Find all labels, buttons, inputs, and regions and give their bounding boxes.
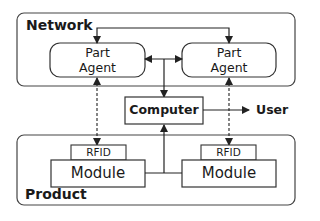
part-agent-left-line2: Agent xyxy=(50,60,145,75)
computer-label: Computer xyxy=(125,102,203,117)
rfid-right-label: RFID xyxy=(201,146,256,158)
part-agent-right: Part Agent xyxy=(182,45,276,75)
part-agent-right-line2: Agent xyxy=(182,60,276,75)
module-right-label: Module xyxy=(182,164,276,182)
part-agent-left: Part Agent xyxy=(50,45,145,75)
rfid-left-label: RFID xyxy=(71,146,126,158)
module-left-label: Module xyxy=(51,164,145,182)
user-label: User xyxy=(256,102,288,117)
part-agent-left-line1: Part xyxy=(50,45,145,60)
part-agent-right-line1: Part xyxy=(182,45,276,60)
network-title: Network xyxy=(26,17,93,33)
product-title: Product xyxy=(25,186,87,202)
